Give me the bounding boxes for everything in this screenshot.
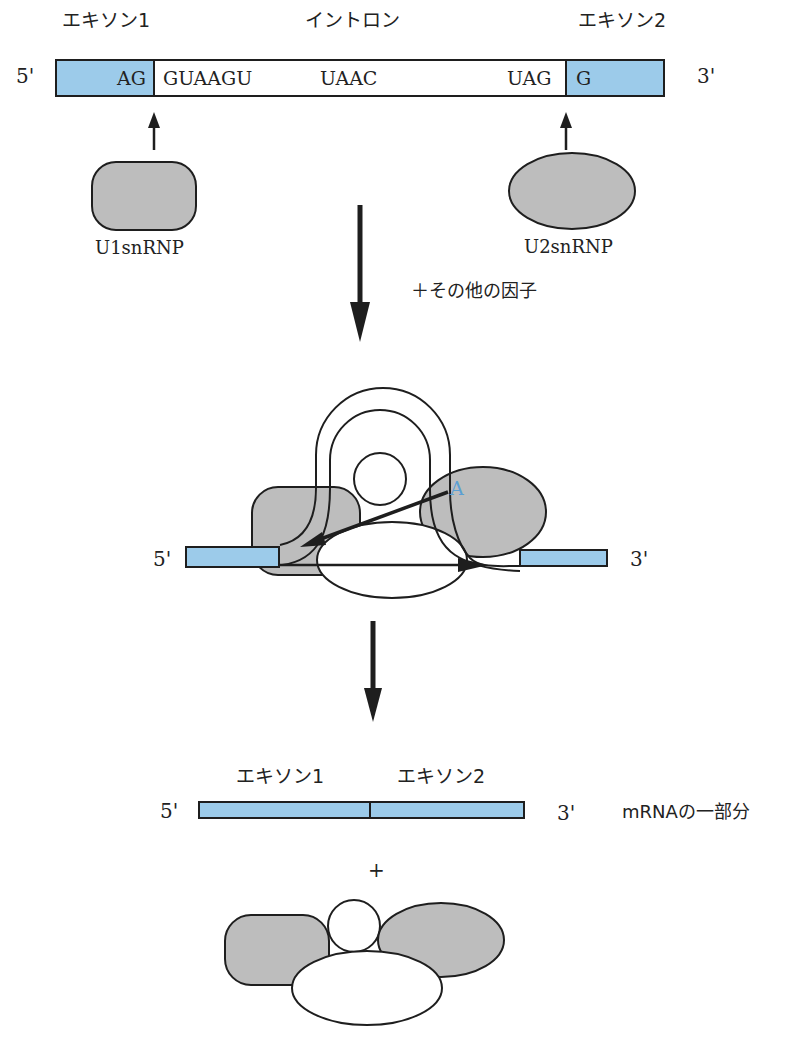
mrna-exon1-box xyxy=(199,802,370,818)
large-snrnp-ellipse xyxy=(292,951,442,1025)
small-snrnp-circle xyxy=(328,900,380,952)
process-arrow-1: ＋その他の因子 xyxy=(350,205,537,342)
seq-exon1-end: AG xyxy=(116,67,146,89)
five-prime-label: 5' xyxy=(153,547,171,571)
mrna-exon2-box xyxy=(370,802,524,818)
u2snrnp-label: U2snRNP xyxy=(524,236,613,257)
three-prime-label: 3' xyxy=(557,801,575,825)
exon1-label: エキソン1 xyxy=(62,9,150,31)
products-section: エキソン1 エキソン2 5' 3' mRNAの一部分 + xyxy=(160,765,750,1025)
five-prime-label: 5' xyxy=(16,64,34,88)
intron-label: イントロン xyxy=(305,9,400,31)
mrna-part-label: mRNAの一部分 xyxy=(622,801,750,822)
arrow-head-icon xyxy=(560,112,572,128)
seq-branch-site: UAAC xyxy=(320,67,377,89)
exon1-label: エキソン1 xyxy=(236,765,324,787)
splicing-diagram: エキソン1 イントロン エキソン2 5' 3' AG GUAAGU UAAC U… xyxy=(0,0,789,1039)
arrow-head-icon xyxy=(148,112,160,128)
u1snrnp-label: U1snRNP xyxy=(95,237,184,258)
three-prime-label: 3' xyxy=(697,64,715,88)
seq-5-splice-site: GUAAGU xyxy=(163,67,252,89)
other-factors-label: ＋その他の因子 xyxy=(411,280,537,301)
plus-sign: + xyxy=(368,858,385,882)
down-arrow-icon xyxy=(364,688,382,722)
five-prime-label: 5' xyxy=(160,799,178,823)
down-arrow-icon xyxy=(350,302,370,342)
pre-mrna-section: エキソン1 イントロン エキソン2 5' 3' AG GUAAGU UAAC U… xyxy=(16,9,715,258)
exon2-label: エキソン2 xyxy=(578,9,666,31)
small-snrnp-circle xyxy=(354,453,406,505)
seq-3-splice-site: UAG xyxy=(507,67,551,89)
three-prime-label: 3' xyxy=(630,547,648,571)
spliceosome-section: 5' 3' A xyxy=(153,388,648,598)
u2snrnp-shape xyxy=(509,153,635,229)
exon1-box xyxy=(186,547,279,567)
branch-point-a: A xyxy=(449,477,464,499)
exon2-label: エキソン2 xyxy=(397,765,485,787)
process-arrow-2 xyxy=(364,621,382,722)
exon2-box xyxy=(520,550,607,566)
u1snrnp-shape xyxy=(92,162,196,230)
seq-exon2-start: G xyxy=(576,67,591,89)
